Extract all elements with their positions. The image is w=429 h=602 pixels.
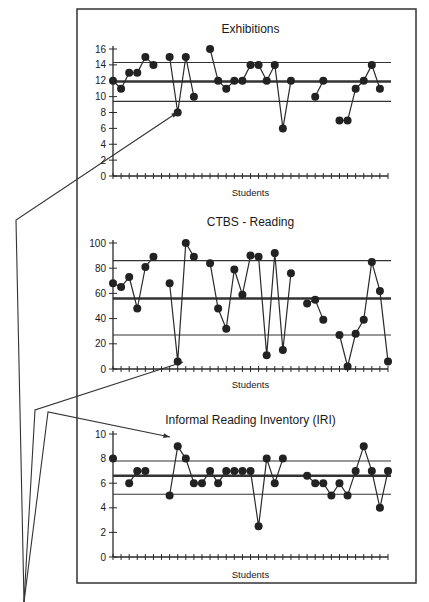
data-point <box>141 467 149 475</box>
data-point <box>368 467 376 475</box>
data-point <box>222 467 230 475</box>
data-point <box>368 258 376 266</box>
data-point <box>174 442 182 450</box>
data-point <box>344 492 352 500</box>
data-point <box>117 283 125 291</box>
data-point <box>182 239 190 247</box>
y-tick-label: 0 <box>100 364 106 375</box>
data-point <box>335 331 343 339</box>
data-point <box>166 53 174 61</box>
data-point <box>360 77 368 85</box>
data-point <box>109 77 117 85</box>
data-point <box>166 279 174 287</box>
data-point <box>352 85 360 93</box>
data-point <box>271 61 279 69</box>
y-tick-label: 8 <box>100 107 106 118</box>
data-point <box>279 346 287 354</box>
data-point <box>109 455 117 463</box>
data-point <box>287 77 295 85</box>
data-point <box>247 61 255 69</box>
data-point <box>222 325 230 333</box>
data-point <box>263 77 271 85</box>
chart-informal-reading-inventory: Informal Reading Inventory (IRI) Student… <box>95 413 392 580</box>
data-point <box>230 77 238 85</box>
data-point <box>149 61 157 69</box>
chart-title: Informal Reading Inventory (IRI) <box>165 413 336 427</box>
data-point <box>255 253 263 261</box>
data-point <box>319 479 327 487</box>
data-point <box>287 269 295 277</box>
data-point <box>263 351 271 359</box>
data-point <box>133 305 141 313</box>
data-point <box>311 479 319 487</box>
y-tick-label: 4 <box>100 502 106 513</box>
data-point <box>376 287 384 295</box>
y-tick-label: 6 <box>100 123 106 134</box>
y-tick-label: 10 <box>95 429 107 440</box>
data-point <box>214 77 222 85</box>
data-point <box>255 522 263 530</box>
data-point <box>255 61 263 69</box>
data-point <box>376 504 384 512</box>
chart-ctbs-reading: CTBS - Reading Students 020406080100 <box>89 215 392 390</box>
data-point <box>222 85 230 93</box>
data-line <box>210 253 291 355</box>
data-point <box>319 77 327 85</box>
pointer-line <box>16 112 178 602</box>
data-point <box>190 479 198 487</box>
data-point <box>247 467 255 475</box>
y-tick-label: 6 <box>100 478 106 489</box>
x-axis-label: Students <box>232 569 270 580</box>
data-point <box>141 263 149 271</box>
data-point <box>133 69 141 77</box>
data-point <box>360 316 368 324</box>
data-point <box>327 492 335 500</box>
data-point <box>230 467 238 475</box>
y-tick-label: 0 <box>100 552 106 563</box>
data-point <box>182 455 190 463</box>
data-point <box>166 492 174 500</box>
y-tick-label: 16 <box>95 44 107 55</box>
y-tick-label: 2 <box>100 155 106 166</box>
data-point <box>360 442 368 450</box>
data-point <box>384 467 392 475</box>
y-tick-label: 40 <box>95 313 107 324</box>
data-point <box>319 316 327 324</box>
data-point <box>125 479 133 487</box>
y-tick-label: 100 <box>89 238 106 249</box>
data-line <box>340 65 380 121</box>
y-tick-label: 14 <box>95 59 107 70</box>
chart-exhibitions: Exhibitions Students 0246810121416 <box>95 22 391 198</box>
data-point <box>352 467 360 475</box>
y-tick-label: 12 <box>95 75 107 86</box>
data-point <box>344 362 352 370</box>
data-point <box>335 116 343 124</box>
data-point <box>271 479 279 487</box>
figure-frame <box>77 9 416 583</box>
data-point <box>125 69 133 77</box>
data-point <box>271 249 279 257</box>
data-point <box>117 85 125 93</box>
data-point <box>352 330 360 338</box>
data-point <box>149 253 157 261</box>
data-point <box>182 53 190 61</box>
data-point <box>368 61 376 69</box>
data-point <box>311 296 319 304</box>
chart-title: Exhibitions <box>221 22 279 36</box>
y-tick-label: 80 <box>95 263 107 274</box>
data-point <box>125 273 133 281</box>
y-tick-label: 20 <box>95 338 107 349</box>
data-point <box>279 124 287 132</box>
data-point <box>133 467 141 475</box>
x-axis-label: Students <box>232 187 270 198</box>
data-point <box>206 45 214 53</box>
data-point <box>384 357 392 365</box>
data-point <box>344 116 352 124</box>
data-point <box>109 279 117 287</box>
data-point <box>303 472 311 480</box>
data-point <box>214 305 222 313</box>
y-tick-label: 4 <box>100 139 106 150</box>
data-point <box>198 479 206 487</box>
data-point <box>311 93 319 101</box>
data-point <box>279 455 287 463</box>
